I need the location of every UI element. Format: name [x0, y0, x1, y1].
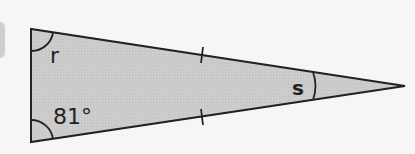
angle-label-r: r	[50, 45, 59, 67]
angle-label-s: s	[292, 78, 304, 98]
triangle-svg	[0, 0, 415, 154]
triangle-diagram: r 81° s	[0, 0, 415, 154]
angle-label-81: 81°	[53, 106, 92, 128]
